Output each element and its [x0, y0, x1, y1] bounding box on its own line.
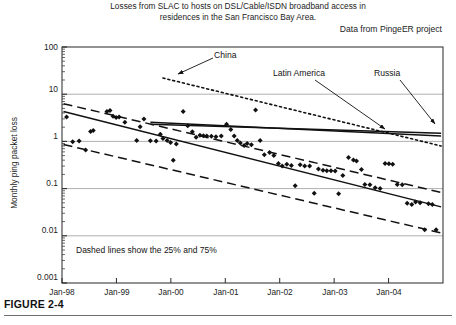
data-point [232, 134, 237, 139]
data-point [430, 202, 435, 207]
data-point [253, 108, 258, 113]
data-point [298, 162, 303, 167]
data-point [284, 162, 289, 167]
data-point [181, 109, 186, 114]
data-point [154, 138, 159, 143]
data-point [77, 138, 82, 143]
data-point [426, 201, 431, 206]
data-point [346, 155, 351, 160]
annotation-russia: Russia [374, 68, 400, 78]
data-point [405, 201, 410, 206]
data-point [307, 164, 312, 169]
annotation-leader-latin-america [315, 80, 385, 129]
data-point [328, 168, 333, 173]
data-point [228, 127, 233, 132]
annotation-leader-russia [400, 80, 435, 124]
data-point [262, 152, 267, 157]
data-point [134, 138, 139, 143]
data-point [320, 168, 325, 173]
data-point [340, 173, 345, 178]
annotation-leader-china [178, 58, 213, 74]
data-point [258, 138, 263, 143]
data-point [83, 147, 88, 152]
data-point [70, 139, 75, 144]
data-point [400, 182, 405, 187]
data-point [209, 134, 214, 139]
data-point [289, 163, 294, 168]
data-point [293, 183, 298, 188]
data-point [267, 150, 272, 155]
annotation-latin-america: Latin America [273, 68, 325, 78]
data-point [122, 120, 127, 125]
data-point [219, 134, 224, 139]
data-point [302, 164, 307, 169]
data-point [390, 162, 395, 167]
figure-rule [4, 315, 452, 316]
data-point [171, 158, 176, 163]
trend-lines-layer [64, 78, 442, 233]
data-point [367, 182, 372, 187]
data-point [359, 167, 364, 172]
data-point [316, 167, 321, 172]
data-point [148, 138, 153, 143]
trend-line-median-fit [64, 112, 442, 207]
annotation-china: China [214, 50, 236, 60]
figure-caption: FIGURE 2-4 [4, 298, 64, 310]
data-point [141, 116, 146, 121]
data-point [422, 227, 427, 232]
data-point [249, 142, 254, 147]
data-point [336, 191, 341, 196]
data-point [333, 169, 338, 174]
data-point [324, 168, 329, 173]
data-point [138, 124, 143, 129]
data-point [409, 202, 414, 207]
data-point [312, 191, 317, 196]
figure-container: Losses from SLAC to hosts on DSL/Cable/I… [0, 0, 456, 325]
data-point [362, 182, 367, 187]
data-point [174, 142, 179, 147]
plot-canvas [0, 0, 456, 325]
annotation-dashed-note: Dashed lines show the 25% and 75% [76, 245, 217, 255]
